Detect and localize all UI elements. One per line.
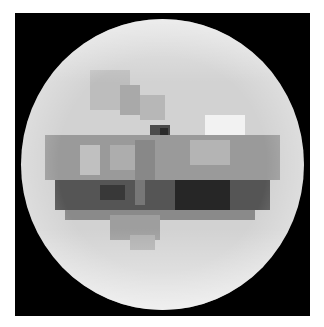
planet-sphere [21, 19, 304, 310]
polar-brightening [21, 19, 304, 310]
